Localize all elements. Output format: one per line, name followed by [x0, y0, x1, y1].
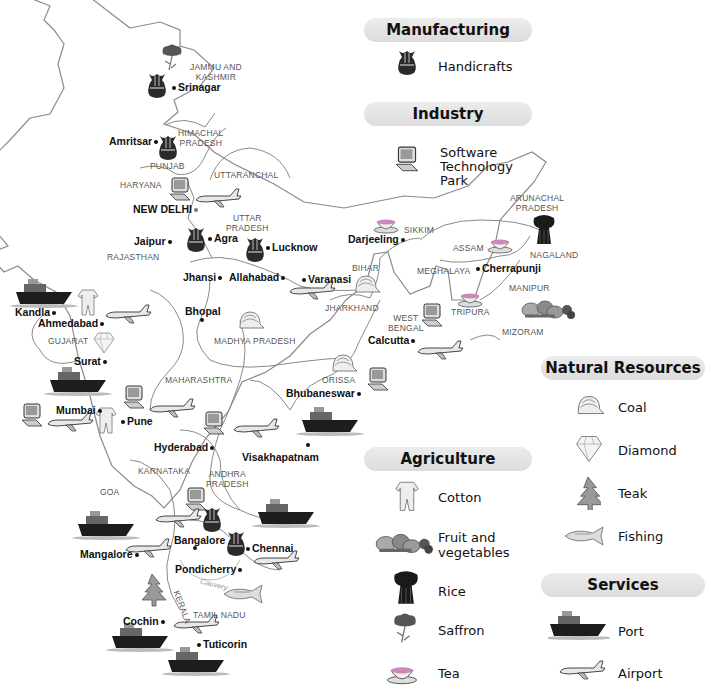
state-label-gujarat: GUJARAT: [48, 336, 88, 346]
legend-label-rice: Rice: [438, 584, 466, 599]
city-agra: Agra: [206, 232, 238, 244]
state-label-nagaland: NAGALAND: [530, 250, 578, 260]
cotton-garment-icon: [393, 480, 421, 516]
legend-label-airport: Airport: [618, 666, 663, 681]
state-label-punjab: PUNJAB: [150, 161, 185, 171]
city-bangalore: Bangalore: [174, 534, 225, 546]
saffron-flower-icon: [390, 613, 420, 647]
fruit-vegetables-icon: [374, 530, 434, 558]
city-bangalore-dot: [193, 546, 197, 550]
teak-tree-icon: [575, 476, 601, 510]
handicrafts-vase-icon: [392, 47, 422, 81]
city-calcutta: Calcutta: [368, 334, 417, 346]
city-cochin: Cochin: [123, 615, 167, 627]
state-label-jharkhand: JHARKHAND: [325, 303, 379, 313]
computer-icon: [392, 143, 422, 177]
legend-label-coal: Coal: [618, 400, 647, 415]
state-label-sikkim: SIKKIM: [404, 225, 434, 235]
city-ahmedabad: Ahmedabad: [38, 317, 106, 329]
city-new-delhi: NEW DELHI: [133, 203, 200, 215]
legend-header-manufacturing: Manufacturing: [364, 18, 532, 42]
city-jhansi: Jhansi: [183, 271, 224, 283]
legend-label-diamond: Diamond: [618, 443, 677, 458]
city-pune: Pune: [119, 415, 153, 427]
city-amritsar: Amritsar: [109, 135, 160, 147]
state-label-jammu-kashmir: JAMMU ANDKASHMIR: [190, 62, 242, 82]
coal-helmet-icon: [574, 392, 604, 418]
state-label-haryana: HARYANA: [120, 180, 162, 190]
city-visakhapatnam-dot: [306, 443, 310, 447]
city-srinagar: Srinagar: [170, 81, 221, 93]
city-bhubaneswar: Bhubaneswar: [286, 387, 363, 399]
city-pondicherry: Pondicherry: [175, 563, 244, 575]
state-label-west-bengal: WESTBENGAL: [388, 313, 424, 333]
city-darjeeling: Darjeeling: [348, 233, 407, 245]
city-bhopal-dot: [200, 318, 204, 322]
city-mumbai: Mumbai: [56, 404, 104, 416]
state-label-orissa: ORISSA: [322, 375, 355, 385]
legend-header-natural-resources: Natural Resources: [541, 356, 705, 380]
legend-label-fishing: Fishing: [618, 529, 663, 544]
legend-label-handicrafts: Handicrafts: [438, 59, 513, 74]
state-label-rajasthan: RAJASTHAN: [107, 252, 159, 262]
city-mangalore: Mangalore: [80, 548, 141, 560]
legend-label-teak: Teak: [618, 486, 647, 501]
rice-sheaf-icon: [389, 570, 423, 606]
legend-label-saffron: Saffron: [438, 623, 484, 638]
india-outline: [0, 0, 546, 508]
legend-header-agriculture: Agriculture: [364, 447, 532, 471]
city-chennai: Chennai: [244, 542, 293, 554]
airplane-icon: [552, 660, 610, 682]
state-label-arunachal-pradesh: ARUNACHALPRADESH: [510, 193, 564, 213]
legend-header-industry: Industry: [364, 102, 532, 126]
city-hyderabad: Hyderabad: [154, 441, 216, 453]
state-label-uttaranchal: UTTARANCHAL: [214, 170, 278, 180]
state-label-goa: GOA: [100, 487, 120, 497]
legend-label-tea: Tea: [438, 666, 460, 681]
city-tuticorin: Tuticorin: [195, 638, 247, 650]
tea-cup-icon: [385, 662, 419, 686]
state-label-tamil-nadu: TAMIL NADU: [193, 610, 246, 620]
state-label-madhya-pradesh: MADHYA PRADESH: [214, 336, 296, 346]
legend-label-cotton: Cotton: [438, 490, 481, 505]
city-cherrapunji: Cherrapunji: [474, 262, 541, 274]
state-label-bihar: BIHAR: [352, 263, 379, 273]
city-jaipur: Jaipur: [134, 235, 174, 247]
state-label-assam: ASSAM: [453, 243, 484, 253]
city-surat: Surat: [74, 355, 109, 367]
state-label-tripura: TRIPURA: [451, 307, 490, 317]
state-label-andhra-pradesh: ANDHRAPRADESH: [206, 469, 249, 489]
state-label-himachal-pradesh: HIMACHALPRADESH: [178, 128, 224, 148]
city-varanasi: Varanasi: [300, 273, 351, 285]
ship-icon: [548, 608, 610, 642]
fish-icon: [556, 526, 612, 546]
state-label-mizoram: MIZORAM: [502, 327, 544, 337]
state-label-uttar-pradesh: UTTARPRADESH: [226, 213, 269, 233]
city-allahabad: Allahabad: [229, 271, 287, 283]
city-lucknow: Lucknow: [264, 241, 318, 253]
legend-label-port: Port: [618, 624, 644, 639]
legend-label-fruit-vegetables: Fruit andvegetables: [438, 530, 510, 560]
city-bhopal: Bhopal: [185, 305, 221, 317]
diamond-icon: [574, 434, 604, 464]
state-label-karnataka: KARNATAKA: [138, 466, 190, 476]
legend-header-services: Services: [541, 573, 705, 597]
city-visakhapatnam: Visakhapatnam: [242, 451, 319, 463]
state-label-maharashtra: MAHARASHTRA: [165, 375, 232, 385]
state-label-meghalaya: MEGHALAYA: [417, 266, 470, 276]
state-label-manipur: MANIPUR: [509, 283, 550, 293]
legend-label-software-technology-park: SoftwareTechnologyPark: [440, 146, 513, 188]
